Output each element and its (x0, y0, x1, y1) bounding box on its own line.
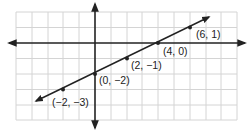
point-6-1 (188, 26, 192, 30)
point-2-neg1 (125, 57, 129, 61)
label-0-neg2: (0, −2) (99, 74, 130, 86)
point-4-0 (156, 41, 160, 45)
label-4-0: (4, 0) (163, 45, 188, 57)
coordinate-graph: (−2, −3) (0, −2) (2, −1) (4, 0) (6, 1) (0, 0, 250, 132)
point-0-neg2 (93, 72, 97, 76)
label-2-neg1: (2, −1) (131, 59, 162, 71)
point-neg2-neg3 (61, 88, 65, 92)
label-neg2-neg3: (−2, −3) (52, 96, 89, 108)
label-6-1: (6, 1) (196, 28, 221, 40)
